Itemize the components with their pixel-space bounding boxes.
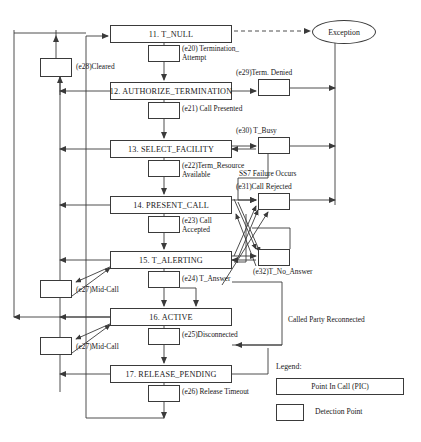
pic-present-call[interactable]: 14. PRESENT_CALL — [110, 196, 232, 214]
dp-e29-term-denied[interactable] — [258, 79, 290, 96]
legend-dp-label: Detection Point — [315, 407, 362, 416]
edge-release-right-loop — [232, 348, 268, 374]
dp-e21-call-presented[interactable] — [148, 102, 180, 119]
legend-pic-swatch: Point In Call (PIC) — [276, 378, 404, 395]
dp-e22-term-resource-available[interactable] — [148, 160, 180, 177]
dp-e24-t-answer[interactable] — [148, 271, 180, 288]
edge-alerting-branch-join — [180, 288, 196, 290]
event-label-e27-mid-call-active: (e27)Mid-Call — [76, 342, 119, 351]
event-label-e31-call-rejected: (e31)Call Rejected — [236, 182, 292, 191]
legend-title: Legend: — [276, 362, 302, 371]
dp-e27-mid-call-active[interactable] — [40, 337, 72, 355]
edge-alerting-cross-to-e31-b — [238, 210, 258, 258]
pic-t-alerting[interactable]: 15. T_ALERTING — [110, 251, 232, 269]
pic-release-pending[interactable]: 17. RELEASE_PENDING — [110, 365, 232, 383]
event-label-ss7-failure-occurs: SS7 Failure Occurs — [239, 169, 296, 178]
legend-dp-swatch — [276, 404, 304, 421]
event-label-e21-call-presented: (e21) Call Presented — [182, 104, 242, 113]
event-label-e30-t-busy: (e30) T_Busy — [236, 126, 277, 135]
state-diagram-canvas: 11. T_NULL 12. AUTHORIZE_TERMINATION 13.… — [0, 0, 421, 442]
event-label-e23-call-accepted: (e23) Call Accepted — [182, 216, 212, 234]
pic-t-null[interactable]: 11. T_NULL — [110, 25, 232, 43]
event-label-e32-t-no-answer: (e32)T_No_Answer — [253, 267, 313, 276]
exception-node[interactable]: Exception — [312, 20, 376, 44]
event-label-e27-mid-call-alerting: (e27)Mid-Call — [76, 285, 119, 294]
dp-e20-termination-attempt[interactable] — [148, 45, 180, 62]
event-label-e22-term-resource-available: (e22)Term_Resource Available — [182, 161, 244, 179]
dp-e28-cleared[interactable] — [40, 58, 72, 77]
dp-e27-mid-call-alerting[interactable] — [40, 280, 72, 298]
dp-e26-release-timeout[interactable] — [148, 385, 180, 402]
event-label-called-party-reconnected: Called Party Reconnected — [288, 315, 365, 324]
event-label-e29-term-denied: (e29)Term. Denied — [236, 68, 292, 77]
event-label-e25-disconnected: (e25)Disconnected — [182, 330, 238, 339]
event-label-e24-t-answer: (e24) T_Answer — [182, 274, 231, 283]
event-label-e26-release-timeout: (e26) Release Timeout — [182, 387, 249, 396]
dp-e23-call-accepted[interactable] — [148, 216, 180, 233]
pic-authorize-termination[interactable]: 12. AUTHORIZE_TERMINATION — [110, 82, 232, 100]
event-label-e20-termination-attempt: (e20) Termination_ Attempt — [182, 44, 239, 62]
edge-called-party-reconnected — [232, 282, 282, 345]
pic-select-facility[interactable]: 13. SELECT_FACILITY — [110, 140, 232, 158]
pic-active[interactable]: 16. ACTIVE — [110, 308, 232, 326]
dp-e25-disconnected[interactable] — [148, 328, 180, 345]
dp-e32-t-no-answer[interactable] — [258, 249, 290, 266]
event-label-e28-cleared: (e28)Cleared — [76, 62, 115, 71]
dp-e30-t-busy[interactable] — [258, 137, 290, 154]
dp-e31-call-rejected[interactable] — [258, 193, 290, 210]
